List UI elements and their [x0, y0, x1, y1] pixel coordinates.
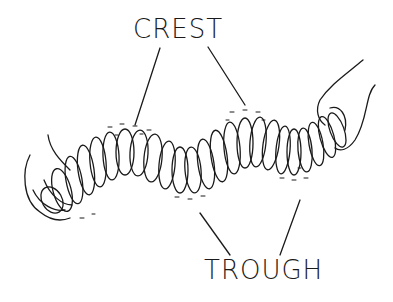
- crest-pointer-left: [135, 48, 160, 125]
- trough-label: TROUGH: [204, 255, 323, 285]
- trough-pointer-right: [280, 200, 300, 255]
- crest-label: CREST: [133, 14, 223, 44]
- wave-diagram: CREST TROUGH: [0, 0, 393, 302]
- crest-pointer-right: [208, 47, 245, 105]
- trough-pointer-left: [200, 213, 230, 255]
- slinky-coils: [36, 111, 349, 217]
- slinky-drawing: [0, 0, 393, 302]
